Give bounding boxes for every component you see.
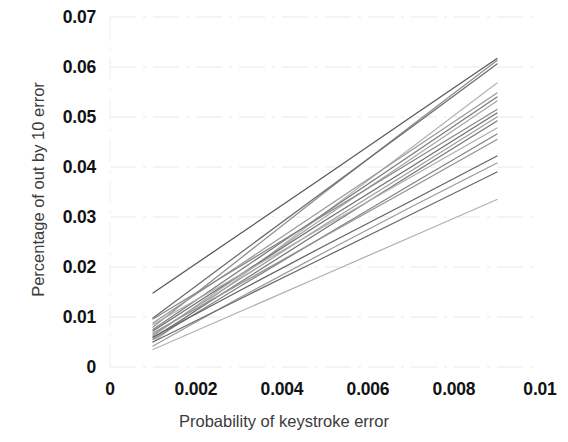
series-line	[153, 59, 497, 294]
y-axis-tick-label: 0.05	[63, 107, 96, 128]
series-line	[153, 128, 497, 325]
series-line	[153, 200, 497, 350]
x-axis-tick-label: 0	[105, 379, 115, 400]
y-axis-tick-label: 0.03	[63, 207, 96, 228]
y-axis-tick-label: 0.02	[63, 257, 96, 278]
x-axis-tick-label: 0.004	[261, 379, 304, 400]
y-axis-tick-label: 0.07	[63, 7, 96, 28]
y-axis-title: Percentage of out by 10 error	[29, 40, 48, 340]
y-axis-tick-label: 0.04	[63, 157, 96, 178]
x-axis-title: Probability of keystroke error	[0, 412, 568, 431]
series-line	[153, 140, 497, 334]
series-line	[153, 64, 497, 318]
series-line	[153, 110, 497, 320]
series-line	[153, 156, 497, 337]
y-axis-tick-label: 0.01	[63, 307, 96, 328]
series-line	[153, 121, 497, 338]
series-line	[153, 61, 497, 328]
x-axis-tick-label: 0.01	[523, 379, 556, 400]
x-axis-tick-label: 0.008	[433, 379, 476, 400]
y-axis-tick-label: 0	[86, 357, 96, 378]
line-chart: 00.010.020.030.040.050.060.07 00.0020.00…	[0, 0, 568, 442]
x-axis-tick-label: 0.006	[347, 379, 390, 400]
series-lines	[153, 59, 497, 350]
x-axis-tick-label: 0.002	[175, 379, 218, 400]
y-axis-tick-label: 0.06	[63, 57, 96, 78]
